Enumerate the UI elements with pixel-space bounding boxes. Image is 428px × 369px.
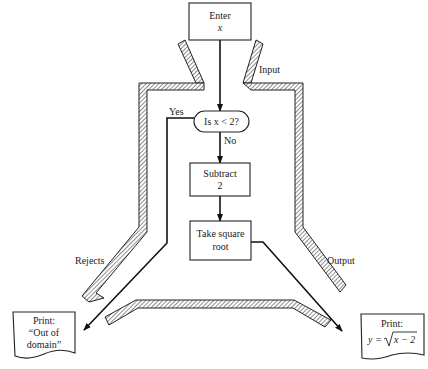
input-label: Input [259,64,280,75]
subtract-label: Subtract [203,168,237,179]
reject-message-line2: domain” [27,339,61,350]
yes-label: Yes [169,106,184,117]
rejects-label: Rejects [75,255,105,266]
reject-output-document: Print: “Out of domain” [13,312,75,358]
subtract-amount: 2 [218,180,223,191]
decision-label: Is x < 2? [204,116,239,127]
input-funnel-left [178,40,204,83]
enter-variable: x [217,22,223,33]
enter-node: Enter x [189,3,251,40]
output-label: Output [327,255,355,266]
decision-node: Is x < 2? [194,111,249,132]
enter-label: Enter [209,10,231,21]
function-machine-diagram: Enter x Is x < 2? Yes No Subtract 2 Take… [0,0,428,369]
result-equation-radicand: x − 2 [393,334,415,345]
result-equation-lhs: y = [367,334,382,345]
sqrt-label-line2: root [212,241,228,252]
input-funnel-right [243,40,263,83]
result-output-document: Print: y = x − 2 [361,314,424,359]
sqrt-label-line1: Take square [197,228,245,239]
housing-bottom [105,300,331,327]
reject-message-line1: “Out of [29,327,60,338]
sqrt-node: Take square root [190,221,251,260]
subtract-node: Subtract 2 [190,163,250,196]
result-print-label: Print: [381,318,403,329]
reject-print-label: Print: [33,315,55,326]
no-label: No [224,135,236,146]
